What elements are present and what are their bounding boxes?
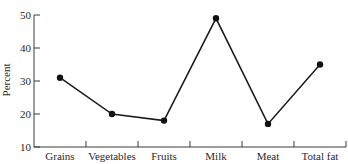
y-tick-label: 30 bbox=[20, 75, 32, 87]
y-tick-label: 50 bbox=[20, 9, 32, 21]
x-category-label: Milk bbox=[205, 150, 227, 162]
y-tick-label: 20 bbox=[20, 108, 32, 120]
series-line bbox=[60, 18, 320, 124]
data-point-fruits bbox=[161, 117, 167, 123]
data-point-vegetables bbox=[109, 111, 115, 117]
y-tick-label: 10 bbox=[20, 141, 32, 153]
x-category-label: Total fat bbox=[302, 150, 339, 162]
x-axis: GrainsVegetablesFruitsMilkMeatTotal fat bbox=[34, 141, 346, 162]
y-axis: 1020304050 bbox=[20, 9, 40, 153]
x-category-label: Vegetables bbox=[88, 150, 136, 162]
y-tick-label: 40 bbox=[20, 42, 32, 54]
x-category-label: Fruits bbox=[151, 150, 177, 162]
y-axis-label: Percent bbox=[0, 64, 12, 97]
data-point-grains bbox=[57, 75, 63, 81]
x-category-label: Meat bbox=[257, 150, 280, 162]
data-point-milk bbox=[213, 15, 219, 21]
data-point-meat bbox=[265, 121, 271, 127]
x-category-label: Grains bbox=[45, 150, 74, 162]
data-series bbox=[57, 15, 323, 127]
line-chart: 1020304050 GrainsVegetablesFruitsMilkMea… bbox=[0, 0, 348, 164]
data-point-total-fat bbox=[317, 61, 323, 67]
